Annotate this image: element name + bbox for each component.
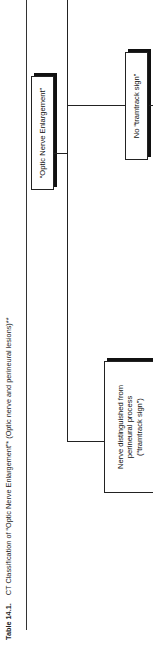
branch-1-connector <box>67 105 125 106</box>
root-node-label: “Optic Nerve Enlargement” <box>38 88 47 178</box>
branch-1-continuation <box>149 105 153 106</box>
tramtrack-label: Nerve distinguished from perineural proc… <box>116 385 144 469</box>
trunk-line <box>67 0 68 442</box>
caption-rule <box>26 0 27 630</box>
table-caption: Table 14.1. CT Classification of “Optic … <box>2 0 16 640</box>
branch-2-connector <box>67 441 105 442</box>
no-tramtrack-label: No “tramtrack sign” <box>132 74 141 139</box>
tramtrack-label-line-1: Nerve distinguished from <box>116 385 125 469</box>
no-tramtrack-box: No “tramtrack sign” <box>125 52 148 160</box>
table-label: Table 14.1. <box>4 603 13 640</box>
tramtrack-box: Nerve distinguished from perineural proc… <box>104 361 153 493</box>
tramtrack-label-line-3: (“tramtrack sign”) <box>135 385 144 469</box>
root-connector <box>54 153 68 154</box>
table-title: CT Classification of “Optic Nerve Enlarg… <box>4 318 13 596</box>
tramtrack-label-line-2: perineural process <box>125 385 134 469</box>
root-node-box: “Optic Nerve Enlargement” <box>31 76 54 190</box>
